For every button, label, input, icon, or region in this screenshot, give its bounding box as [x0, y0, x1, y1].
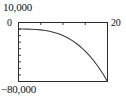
data-series-curve: [19, 29, 108, 81]
plot-frame-border: [19, 23, 108, 82]
plot-area: [0, 0, 126, 97]
plot-svg: [0, 0, 126, 97]
chart-figure: 10,000 0 20 −80,000: [0, 0, 126, 97]
